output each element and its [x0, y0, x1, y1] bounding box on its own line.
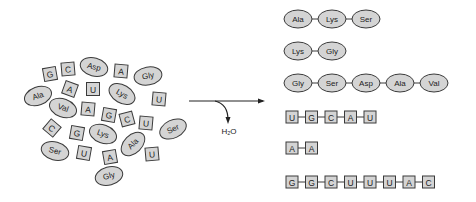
arrowhead-icon: [258, 99, 265, 104]
rna-3: GGCUUUAC: [286, 176, 435, 188]
residue-label: Ser: [326, 79, 339, 88]
amino-acid-monomer: Ser: [39, 139, 71, 164]
residue-label: Gly: [326, 47, 338, 56]
nucleotide-monomer: A: [114, 64, 128, 78]
residue-label: Lys: [326, 15, 338, 24]
base-label: A: [309, 144, 315, 154]
nucleotide-label: U: [90, 85, 96, 95]
rna-2: AA: [286, 142, 318, 154]
base-label: C: [425, 178, 431, 188]
amino-acid-monomer: Asp: [78, 55, 110, 80]
residue-label: Ser: [360, 15, 373, 24]
nucleotide-label: U: [155, 94, 162, 104]
nucleotide-label: U: [142, 118, 149, 128]
nucleotide-monomer: G: [42, 66, 57, 81]
nucleotide-monomer: A: [81, 102, 95, 116]
polymers: AlaLysSerLysGlyGlySerAspAlaValUGCAUAAGGC…: [284, 10, 448, 188]
residue-label: Ala: [292, 15, 304, 24]
amino-acid-monomer: Lys: [87, 121, 119, 147]
amino-acid-monomer: Val: [47, 95, 79, 121]
nucleotide-label: C: [65, 64, 72, 74]
base-label: U: [347, 178, 353, 188]
nucleotide-monomer: C: [61, 62, 75, 76]
peptide-1: AlaLysSer: [284, 10, 380, 28]
base-label: G: [308, 178, 315, 188]
amino-acid-monomer: Gly: [133, 65, 164, 88]
nucleotide-monomer: U: [139, 116, 153, 130]
amino-acid-monomer: Ala: [117, 128, 150, 161]
residue-label: Ala: [394, 79, 406, 88]
base-label: C: [328, 178, 334, 188]
residue-label: Gly: [292, 79, 304, 88]
nucleotide-monomer: A: [102, 149, 117, 164]
base-label: C: [328, 113, 334, 123]
water-byproduct-label: H₂O: [221, 127, 236, 136]
base-label: G: [308, 113, 315, 123]
amino-acid-monomer: Gly: [93, 164, 125, 189]
nucleotide-monomer: C: [43, 119, 61, 137]
residue-label: Lys: [292, 47, 304, 56]
nucleotide-monomer: G: [101, 107, 116, 122]
base-label: A: [348, 113, 354, 123]
water-arrowhead-icon: [226, 117, 231, 124]
reaction-arrow-group: H₂O: [189, 99, 265, 137]
base-label: U: [367, 178, 373, 188]
residue-label: Asp: [359, 79, 373, 88]
residue-label: Val: [429, 79, 440, 88]
nucleotide-monomer: U: [87, 83, 100, 96]
base-label: U: [386, 178, 392, 188]
nucleotide-label: U: [149, 149, 156, 159]
nucleotide-monomer: A: [62, 81, 79, 98]
base-label: A: [406, 178, 412, 188]
nucleotide-monomer: U: [76, 145, 91, 160]
nucleotide-monomer: G: [69, 125, 84, 140]
base-label: U: [289, 113, 295, 123]
nucleotide-monomer: C: [119, 111, 135, 127]
peptide-3: GlySerAspAlaVal: [284, 74, 448, 92]
nucleotide-monomer: U: [152, 92, 166, 106]
base-label: A: [289, 144, 295, 154]
nucleotide-monomer: U: [145, 147, 159, 161]
base-label: U: [367, 113, 373, 123]
monomer-pool: AspGlyAlaLysValSerLysSerAlaGlyGCAAUUAGCU…: [22, 55, 190, 189]
amino-acid-monomer: Ser: [157, 115, 190, 143]
hydrolysis-diagram: AspGlyAlaLysValSerLysSerAlaGlyGCAAUUAGCU…: [0, 0, 476, 202]
peptide-2: LysGly: [284, 42, 346, 60]
rna-1: UGCAU: [286, 111, 376, 123]
base-label: G: [289, 178, 296, 188]
amino-acid-monomer: Lys: [105, 79, 138, 109]
